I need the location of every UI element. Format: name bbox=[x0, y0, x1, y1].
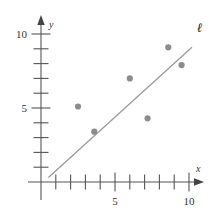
line-label-l: ℓ bbox=[197, 20, 203, 35]
x-axis-label: x bbox=[195, 163, 201, 174]
y-tick-label-5: 5 bbox=[22, 102, 28, 114]
scatter-plot-figure: y 10 5 x bbox=[0, 0, 216, 210]
plot-canvas: y 10 5 x bbox=[0, 0, 216, 210]
y-axis-label: y bbox=[48, 19, 54, 30]
x-axis-group: x 5 10 bbox=[28, 163, 204, 207]
best-fit-line-group: ℓ bbox=[48, 20, 202, 178]
x-tick-label-5: 5 bbox=[112, 195, 118, 207]
y-axis-group: y 10 5 bbox=[16, 15, 54, 200]
x-tick-label-10: 10 bbox=[184, 195, 196, 207]
scatter-point bbox=[91, 129, 97, 135]
x-axis-arrowhead bbox=[194, 178, 204, 185]
scatter-point bbox=[127, 75, 133, 81]
scatter-points-group bbox=[75, 44, 185, 135]
y-tick-label-10: 10 bbox=[16, 28, 28, 40]
scatter-point bbox=[75, 103, 81, 109]
scatter-point bbox=[165, 44, 171, 50]
best-fit-line-l bbox=[48, 47, 192, 177]
scatter-point bbox=[179, 62, 185, 68]
y-axis-arrowhead bbox=[37, 15, 44, 25]
scatter-point bbox=[144, 115, 150, 121]
